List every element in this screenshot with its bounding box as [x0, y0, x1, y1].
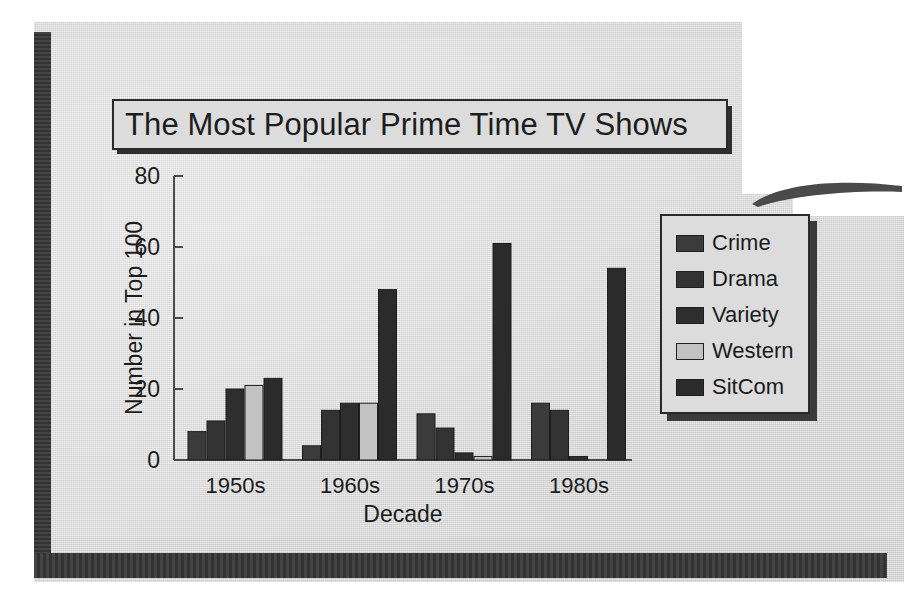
legend-item-western: Western [662, 333, 808, 369]
legend-item-drama: Drama [662, 261, 808, 297]
bar-crime-1970s [417, 414, 435, 460]
legend-item-variety: Variety [662, 297, 808, 333]
legend-item-crime: Crime [662, 225, 808, 261]
legend-swatch-sitcom [676, 379, 704, 396]
bar-variety-1980s [570, 456, 588, 460]
chart-legend: Crime Drama Variety Western SitCom [660, 214, 810, 414]
x-tick-label-1950s: 1950s [206, 473, 266, 498]
x-tick-label-1960s: 1960s [320, 473, 380, 498]
bar-western-1960s [360, 403, 378, 460]
bar-crime-1980s [532, 403, 550, 460]
x-tick-label-1980s: 1980s [549, 473, 609, 498]
legend-label-sitcom: SitCom [712, 376, 784, 398]
screenshot-root: The Most Popular Prime Time TV Shows 020… [0, 0, 904, 603]
bar-drama-1960s [322, 410, 340, 460]
y-tick-label: 0 [147, 447, 160, 473]
y-axis-title: Number in Top 100 [121, 221, 147, 415]
bar-variety-1950s [226, 389, 244, 460]
x-axis-title: Decade [363, 501, 442, 527]
legend-swatch-drama [676, 271, 704, 288]
legend-label-drama: Drama [712, 268, 778, 290]
legend-label-western: Western [712, 340, 794, 362]
legend-swatch-variety [676, 307, 704, 324]
legend-item-sitcom: SitCom [662, 369, 808, 405]
bar-drama-1980s [551, 410, 569, 460]
legend-swatch-western [676, 343, 704, 360]
bar-sitcom-1970s [493, 243, 511, 460]
bar-variety-1960s [341, 403, 359, 460]
bar-drama-1950s [207, 421, 225, 460]
legend-label-variety: Variety [712, 304, 779, 326]
bar-crime-1960s [303, 446, 321, 460]
bar-sitcom-1960s [379, 290, 397, 460]
legend-label-crime: Crime [712, 232, 771, 254]
bar-western-1950s [245, 385, 263, 460]
y-tick-label: 80 [134, 163, 160, 189]
bar-sitcom-1980s [608, 268, 626, 460]
legend-swatch-crime [676, 235, 704, 252]
x-tick-label-1970s: 1970s [435, 473, 495, 498]
bar-variety-1970s [455, 453, 473, 460]
bar-sitcom-1950s [264, 378, 282, 460]
bar-western-1970s [474, 456, 492, 460]
bar-drama-1970s [436, 428, 454, 460]
bar-crime-1950s [188, 432, 206, 460]
